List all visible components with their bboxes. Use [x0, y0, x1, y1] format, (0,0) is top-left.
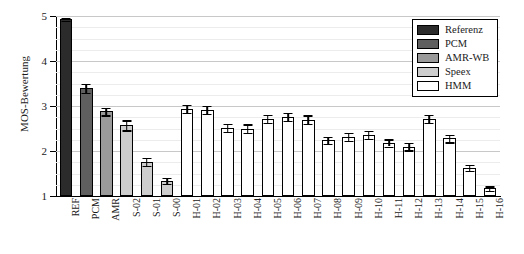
error-bar-cap-upper [304, 115, 313, 117]
error-bar-cap-upper [445, 135, 454, 137]
error-bar-cap-upper [364, 131, 373, 133]
x-axis-tick-label: H-06 [292, 198, 303, 219]
bar-group [141, 16, 154, 196]
bar-group [60, 16, 73, 196]
bar [80, 88, 93, 196]
error-bar-cap-upper [122, 120, 131, 122]
x-axis-tick-labels: REFPCMAMRS-02S-01S-00H-01H-02H-03H-04H-0… [56, 198, 500, 254]
error-bar-cap-lower [62, 21, 71, 23]
error-bar-cap-lower [485, 191, 494, 193]
error-bar-cap-upper [263, 115, 272, 117]
x-axis-tick-label: REF [70, 198, 81, 216]
y-axis-tick [50, 196, 56, 197]
bar [282, 117, 295, 196]
chart-legend: ReferenzPCMAMR-WBSpeexHMM [412, 19, 498, 97]
legend-item: PCM [417, 37, 493, 51]
x-axis-tick-label: H-14 [454, 198, 465, 219]
x-axis-tick-label: H-12 [413, 198, 424, 219]
error-bar-cap-lower [405, 150, 414, 152]
error-bar-cap-upper [183, 105, 192, 107]
bar [363, 135, 376, 196]
error-bar-cap-upper [142, 158, 151, 160]
error-bar-cap-lower [445, 142, 454, 144]
bar [221, 128, 234, 196]
error-bar-cap-upper [485, 186, 494, 188]
bar-group [201, 16, 214, 196]
bar [403, 147, 416, 197]
bar-group [221, 16, 234, 196]
bar [322, 140, 335, 196]
error-bar-cap-lower [82, 93, 91, 95]
y-axis-tick-label: 5 [42, 10, 48, 22]
bar-group [342, 16, 355, 196]
error-bar-cap-upper [324, 137, 333, 139]
x-axis-line [56, 196, 501, 197]
bar-group [363, 16, 376, 196]
error-bar-cap-lower [142, 166, 151, 168]
error-bar-cap-upper [405, 143, 414, 145]
error-bar-cap-lower [344, 141, 353, 143]
x-axis-tick-label: H-04 [252, 198, 263, 219]
x-axis-tick-label: S-00 [171, 198, 182, 217]
bar-group [100, 16, 113, 196]
error-bar-cap-lower [384, 147, 393, 149]
legend-label: AMR-WB [445, 53, 489, 64]
bar-group [80, 16, 93, 196]
legend-item: AMR-WB [417, 51, 493, 65]
x-axis-tick-label: H-13 [433, 198, 444, 219]
bar [201, 110, 214, 196]
error-bar-cap-upper [284, 113, 293, 115]
error-bar-cap-lower [324, 144, 333, 146]
bar [100, 111, 113, 196]
x-axis-tick-label: PCM [90, 198, 101, 219]
error-bar-cap-lower [364, 139, 373, 141]
bar [302, 120, 315, 197]
x-axis-tick-label: H-08 [332, 198, 343, 219]
error-bar-cap-lower [183, 113, 192, 115]
bar [443, 138, 456, 196]
x-axis-tick-label: H-16 [494, 198, 505, 219]
x-axis-tick-label: H-03 [232, 198, 243, 219]
bar-group [383, 16, 396, 196]
legend-label: PCM [445, 39, 467, 50]
legend-item: Referenz [417, 23, 493, 37]
x-axis-tick-label: H-07 [312, 198, 323, 219]
legend-swatch [417, 81, 439, 91]
bar [262, 119, 275, 196]
error-bar-cap-upper [223, 124, 232, 126]
error-bar-cap-lower [304, 124, 313, 126]
bar [241, 129, 254, 197]
bar-group [161, 16, 174, 196]
error-bar-cap-lower [102, 115, 111, 117]
x-axis-tick-label: H-05 [272, 198, 283, 219]
legend-label: Speex [445, 67, 471, 78]
error-bar-cap-lower [203, 114, 212, 116]
legend-swatch [417, 39, 439, 49]
bar-group [302, 16, 315, 196]
bar-group [262, 16, 275, 196]
error-bar-cap-lower [425, 123, 434, 125]
bar-group [120, 16, 133, 196]
bar [342, 137, 355, 196]
x-axis-tick-label: S-02 [131, 198, 142, 217]
y-axis-tick-label: 3 [42, 100, 48, 112]
bar-group [181, 16, 194, 196]
x-axis-tick-label: H-01 [191, 198, 202, 219]
x-axis-tick-label: AMR [110, 198, 121, 221]
bar [383, 143, 396, 196]
error-bar-cap-upper [102, 108, 111, 110]
bar [181, 109, 194, 196]
y-axis-tick-label: 4 [42, 55, 48, 67]
legend-swatch [417, 53, 439, 63]
legend-label: HMM [445, 81, 471, 92]
error-bar-cap-upper [425, 115, 434, 117]
error-bar-cap-upper [82, 84, 91, 86]
mos-rating-bar-chart: MOS-Bewertung 12345 REFPCMAMRS-02S-01S-0… [0, 0, 524, 254]
error-bar-cap-lower [284, 121, 293, 123]
error-bar-cap-lower [122, 130, 131, 132]
error-bar-cap-lower [162, 184, 171, 186]
y-axis-tick-label: 2 [42, 145, 48, 157]
error-bar-cap-upper [243, 124, 252, 126]
error-bar-cap-lower [243, 133, 252, 135]
bar-group [241, 16, 254, 196]
